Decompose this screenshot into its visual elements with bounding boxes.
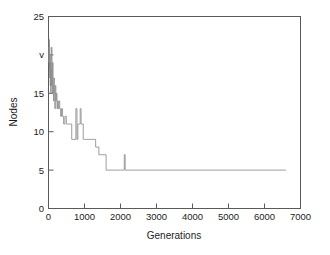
x-axis-ticks <box>49 204 301 209</box>
y-tick-labels: 0 5 10 15 v 25 <box>33 11 44 214</box>
x-tick-label-3000: 3000 <box>146 211 167 222</box>
plot-frame <box>49 17 301 209</box>
y-tick-label-10: 10 <box>33 126 44 137</box>
x-tick-label-5000: 5000 <box>218 211 239 222</box>
y-tick-label-25: 25 <box>33 11 44 22</box>
x-tick-label-1000: 1000 <box>74 211 95 222</box>
x-tick-label-6000: 6000 <box>254 211 275 222</box>
x-tick-label-2000: 2000 <box>110 211 131 222</box>
y-tick-label-20: v <box>39 49 44 60</box>
y-tick-label-0: 0 <box>39 203 44 214</box>
data-series-best-individual-size <box>49 40 287 171</box>
nodes-vs-generations-line-chart: 0 5 10 15 v 25 0 1000 2000 3000 4000 500… <box>0 0 330 255</box>
x-axis-title: Generations <box>147 230 201 241</box>
chart-figure: 0 5 10 15 v 25 0 1000 2000 3000 4000 500… <box>0 0 330 255</box>
x-tick-label-7000: 7000 <box>290 211 311 222</box>
x-tick-labels: 0 1000 2000 3000 4000 5000 6000 7000 <box>46 211 311 222</box>
x-tick-label-0: 0 <box>46 211 51 222</box>
y-tick-label-15: 15 <box>33 88 44 99</box>
x-tick-label-4000: 4000 <box>182 211 203 222</box>
y-axis-title: Nodes <box>8 98 19 127</box>
y-tick-label-5: 5 <box>39 165 44 176</box>
